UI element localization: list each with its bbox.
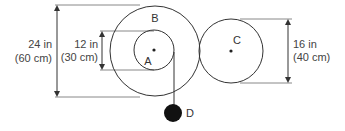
dimension-label-line2: (40 cm)	[293, 51, 330, 63]
dimension-label-line2: (60 cm)	[15, 52, 52, 64]
dimension-label-line2: (30 cm)	[61, 51, 98, 63]
label-d: D	[186, 107, 194, 119]
label-a: A	[144, 55, 152, 67]
label-b: B	[151, 12, 158, 24]
pulley-diagram: 24 in (60 cm) 12 in (30 cm) B A D C 16 i…	[0, 0, 345, 131]
dimension-label-line1: 12 in	[74, 38, 98, 50]
weight-d	[164, 104, 182, 122]
dimension-label-line1: 24 in	[28, 38, 52, 50]
center-dot-a	[152, 48, 155, 51]
dimension-label-line1: 16 in	[293, 38, 317, 50]
center-dot-c	[229, 49, 232, 52]
label-c: C	[233, 34, 241, 46]
